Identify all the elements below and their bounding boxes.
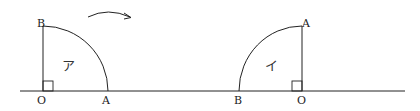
right-quarter-circle: O A B イ [234,17,311,107]
rotation-arrow-icon [88,12,131,19]
region-label-a: ア [62,58,75,73]
region-label-i: イ [265,58,278,73]
left-quarter-circle: O A B ア [37,17,111,107]
point-label-a: A [101,94,111,107]
point-label-a: A [301,17,311,30]
right-angle-mark [43,81,53,91]
point-label-b: B [234,94,242,107]
point-label-o: O [297,94,306,107]
point-label-b: B [37,17,45,30]
point-label-o: O [37,94,46,107]
right-angle-mark [292,81,302,91]
quarter-circle-rotation-diagram: O A B ア O A B イ [0,0,420,111]
